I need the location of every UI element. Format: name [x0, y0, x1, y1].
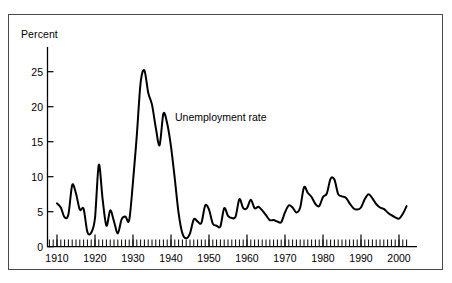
x-minor-ticks [49, 240, 406, 247]
plot-area [0, 0, 452, 283]
axis-lines [47, 47, 417, 247]
y-major-ticks [48, 72, 54, 247]
chart-page: Percent 0 5 10 15 20 25 1910 1920 1930 1… [0, 0, 452, 283]
series-line-unemployment-rate [57, 70, 407, 238]
